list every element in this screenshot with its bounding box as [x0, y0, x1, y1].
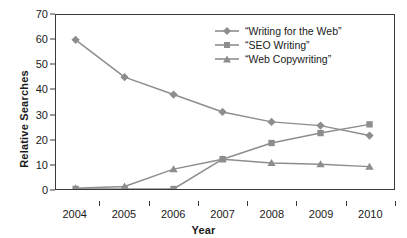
data-point-marker: [170, 186, 176, 189]
data-point-marker: [366, 121, 372, 127]
y-axis-tick-mark: [50, 14, 55, 15]
y-axis-tick-mark: [50, 39, 55, 40]
data-point-marker: [316, 121, 324, 129]
y-axis-tick-label: 0: [20, 184, 48, 196]
x-axis-tick-label: 2004: [52, 208, 98, 220]
series-line: [76, 159, 370, 188]
x-axis-tick-label: 2005: [101, 208, 147, 220]
x-axis-tick-mark: [198, 201, 199, 206]
y-axis-tick-mark: [50, 139, 55, 140]
diamond-marker-icon: [214, 25, 240, 37]
x-axis-title: Year: [0, 224, 407, 236]
data-point-marker: [317, 130, 323, 136]
series-triangle: [71, 155, 373, 189]
x-axis-tick-mark: [296, 201, 297, 206]
legend-item: “Writing for the Web”: [214, 24, 341, 38]
triangle-marker-icon: [214, 53, 240, 65]
line-chart: Relative Searches Year “Writing for the …: [0, 0, 407, 238]
x-axis-tick-label: 2006: [150, 208, 196, 220]
y-axis-tick-mark: [50, 164, 55, 165]
x-axis-tick-mark: [395, 201, 396, 206]
data-point-marker: [365, 131, 373, 139]
series-square: [72, 121, 372, 189]
y-axis-tick-label: 50: [20, 58, 48, 70]
y-axis-tick-label: 30: [20, 109, 48, 121]
legend-label: “SEO Writing”: [245, 38, 310, 52]
y-axis-tick-mark: [50, 64, 55, 65]
data-point-marker: [169, 90, 177, 98]
legend-label: “Writing for the Web”: [245, 24, 341, 38]
y-axis-tick-mark: [50, 89, 55, 90]
x-axis-tick-label: 2010: [347, 208, 393, 220]
y-axis-tick-label: 20: [20, 134, 48, 146]
y-axis-tick-mark: [50, 114, 55, 115]
data-point-marker: [267, 118, 275, 126]
legend-item: “Web Copywriting”: [214, 52, 341, 66]
square-marker-icon: [214, 39, 240, 51]
chart-legend: “Writing for the Web” “SEO Writing” “Web…: [214, 24, 341, 66]
x-axis-tick-mark: [149, 201, 150, 206]
y-axis-tick-label: 40: [20, 83, 48, 95]
x-axis-tick-label: 2007: [200, 208, 246, 220]
x-axis-tick-mark: [99, 201, 100, 206]
x-axis-tick-label: 2008: [249, 208, 295, 220]
x-axis-tick-mark: [247, 201, 248, 206]
y-axis-tick-label: 70: [20, 8, 48, 20]
legend-label: “Web Copywriting”: [245, 52, 331, 66]
y-axis-tick-label: 60: [20, 33, 48, 45]
y-axis-tick-mark: [50, 190, 55, 191]
y-axis-tick-label: 10: [20, 159, 48, 171]
data-point-marker: [268, 140, 274, 146]
data-point-marker: [218, 108, 226, 116]
x-axis-tick-label: 2009: [298, 208, 344, 220]
legend-item: “SEO Writing”: [214, 38, 341, 52]
x-axis-tick-mark: [346, 201, 347, 206]
